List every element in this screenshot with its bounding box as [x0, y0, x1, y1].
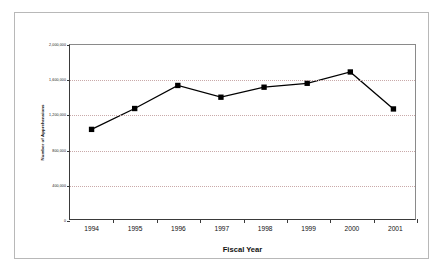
- y-axis-tick: [67, 45, 70, 46]
- x-axis-tick: [244, 219, 245, 223]
- x-axis-tick-label: 1995: [128, 225, 143, 232]
- data-point-marker: [391, 106, 396, 111]
- data-series-line: [70, 45, 415, 219]
- x-axis-tick: [417, 219, 418, 223]
- y-gridline: [70, 115, 415, 116]
- x-axis-tick-label: 1998: [258, 225, 273, 232]
- y-axis-title-text: Number of Apprehensions: [40, 104, 45, 160]
- y-axis-tick-label: 1,200,000: [49, 113, 66, 117]
- y-gridline: [70, 186, 415, 187]
- x-axis-tick-label: 2001: [388, 225, 403, 232]
- y-axis-tick-label: 800,000: [52, 149, 66, 153]
- x-axis-tick: [200, 219, 201, 223]
- plot-area: 0400,000800,0001,200,0001,600,0002,000,0…: [69, 44, 416, 220]
- y-axis-tick-label: 1,600,000: [49, 78, 66, 82]
- x-axis-tick: [113, 219, 114, 223]
- y-axis-tick: [67, 221, 70, 222]
- x-axis-tick-label: 2000: [345, 225, 360, 232]
- y-axis-tick-label: 0: [64, 219, 66, 223]
- data-point-marker: [132, 106, 137, 111]
- data-point-marker: [89, 127, 94, 132]
- y-axis-tick: [67, 151, 70, 152]
- y-axis-tick: [67, 115, 70, 116]
- data-point-marker: [175, 83, 180, 88]
- x-axis-tick-label: 1997: [214, 225, 229, 232]
- x-axis-tick: [374, 219, 375, 223]
- chart-figure: Number of Apprehensions 0400,000800,0001…: [14, 12, 429, 259]
- x-axis-title: Fiscal Year: [69, 245, 416, 254]
- y-axis-tick: [67, 186, 70, 187]
- x-axis-tick: [287, 219, 288, 223]
- data-point-marker: [218, 95, 223, 100]
- data-point-marker: [348, 69, 353, 74]
- x-axis-tick-label: 1996: [171, 225, 186, 232]
- y-gridline: [70, 80, 415, 81]
- x-axis-tick-label: 1999: [301, 225, 316, 232]
- data-point-marker: [261, 85, 266, 90]
- data-point-marker: [305, 81, 310, 86]
- y-axis-title: Number of Apprehensions: [37, 44, 47, 220]
- x-axis-tick: [157, 219, 158, 223]
- y-axis-tick: [67, 80, 70, 81]
- x-axis-tick: [330, 219, 331, 223]
- y-axis-tick-label: 400,000: [52, 184, 66, 188]
- y-gridline: [70, 151, 415, 152]
- y-axis-tick-label: 2,000,000: [49, 43, 66, 47]
- x-axis-tick-label: 1994: [84, 225, 99, 232]
